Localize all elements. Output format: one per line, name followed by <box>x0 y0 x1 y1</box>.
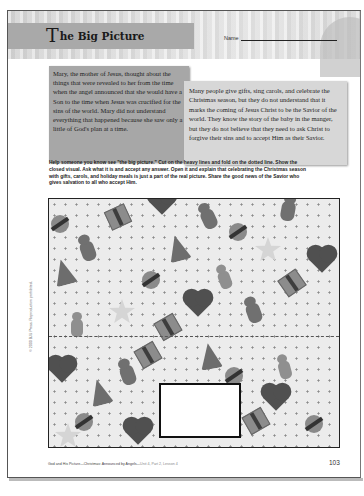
teddy-bear-icon <box>78 239 98 263</box>
christmas-tree-icon <box>86 377 114 408</box>
teddy-bear-icon <box>118 363 138 387</box>
people-text-box: Many people give gifts, sing carols, and… <box>184 81 347 165</box>
title-initial: T <box>46 24 59 46</box>
gingerbread-man-icon <box>216 269 233 290</box>
worksheet-page: The Big Picture Name Mary, the mother of… <box>7 10 361 478</box>
teddy-bear-icon <box>279 200 296 222</box>
christmas-tree-icon <box>164 233 192 264</box>
gift-icon <box>241 407 270 435</box>
heart-icon <box>149 198 174 215</box>
footer-lesson: Unit 4, Part 2, Lesson 4 <box>140 462 178 466</box>
page-number: 103 <box>329 459 340 466</box>
gingerbread-man-icon <box>277 360 293 380</box>
page-title: The Big Picture <box>46 24 145 46</box>
gift-icon <box>133 341 162 369</box>
gift-icon <box>277 268 306 297</box>
footer-course-title: God and His Picture—Christmas: Announced… <box>48 462 140 466</box>
ornament-icon <box>142 271 160 289</box>
heart-icon <box>125 419 150 444</box>
teddy-bear-icon <box>198 207 219 231</box>
name-field[interactable]: Name <box>224 34 337 41</box>
copyright-notice: © 2000 BJU Press. Reproduction prohibite… <box>29 281 33 352</box>
fold-dotted-line <box>49 336 339 337</box>
ornament-icon <box>305 415 323 433</box>
heart-icon <box>263 385 288 410</box>
heart-icon <box>49 357 74 382</box>
footer-course: God and His Picture—Christmas: Announced… <box>48 462 178 466</box>
christmas-tree-icon <box>197 341 223 370</box>
gingerbread-man-icon <box>71 319 83 337</box>
title-rest: he Big Picture <box>60 30 145 42</box>
star-icon <box>255 237 281 261</box>
teddy-bear-icon <box>244 301 264 325</box>
page-shadow <box>9 478 363 481</box>
name-label: Name <box>224 35 239 41</box>
cutout-window <box>159 383 241 438</box>
name-input-line[interactable] <box>241 34 337 41</box>
mary-text-box: Mary, the mother of Jesus, thought about… <box>49 66 189 162</box>
christmas-tree-icon <box>50 257 78 288</box>
ornament-icon <box>229 223 247 241</box>
gift-icon <box>104 203 132 230</box>
star-icon <box>109 299 135 323</box>
christmas-pattern-visual <box>48 198 340 448</box>
heart-icon <box>185 291 210 316</box>
ornament-icon <box>51 215 69 233</box>
heart-icon <box>309 247 334 272</box>
instructions: Help someone you know see "the big pictu… <box>49 160 311 187</box>
ornament-icon <box>75 413 93 431</box>
